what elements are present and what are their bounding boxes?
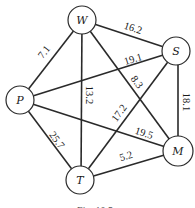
node-m: M bbox=[163, 136, 193, 166]
edge-p-m bbox=[20, 100, 178, 151]
node-p-label: P bbox=[15, 94, 24, 107]
weight-s-m: 18.1 bbox=[181, 93, 192, 111]
edge-w-t bbox=[81, 20, 82, 180]
node-w-label: W bbox=[76, 14, 89, 27]
node-s-label: S bbox=[172, 45, 180, 58]
weight-t-m: 5.2 bbox=[118, 149, 134, 163]
edge-w-p bbox=[20, 20, 82, 100]
weight-p-s: 19.1 bbox=[123, 51, 144, 67]
weight-s-t: 17.2 bbox=[109, 102, 129, 123]
edge-p-t bbox=[20, 100, 80, 180]
node-w: W bbox=[68, 6, 96, 34]
weight-w-p: 7.1 bbox=[36, 43, 53, 60]
weight-p-m: 19.5 bbox=[134, 125, 155, 141]
weighted-graph-diagram: 16.2 7.1 13.2 8.3 19.1 17.2 18.1 19.5 25… bbox=[0, 0, 195, 208]
edge-w-m bbox=[82, 20, 178, 151]
node-s: S bbox=[162, 37, 190, 65]
node-p: P bbox=[6, 86, 34, 114]
node-t: T bbox=[66, 166, 94, 194]
node-m-label: M bbox=[171, 145, 184, 158]
figure-caption: Fig. 10.5 bbox=[77, 205, 113, 208]
weight-w-t: 13.2 bbox=[84, 86, 95, 104]
